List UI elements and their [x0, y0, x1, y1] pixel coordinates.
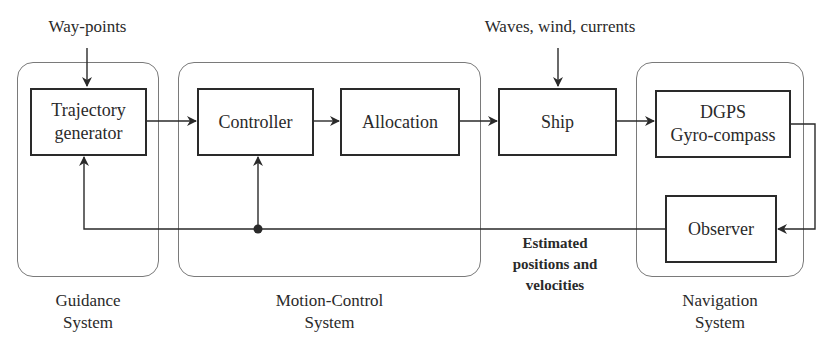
motion-control-system-label: Motion-Control System [178, 290, 481, 334]
dgps-gyrocompass-block: DGPSGyro-compass [655, 90, 791, 158]
trajectory-generator-block: Trajectorygenerator [30, 88, 147, 156]
waypoints-label: Way-points [30, 16, 145, 38]
junction-dot [254, 225, 263, 234]
guidance-system-label: Guidance System [17, 290, 159, 334]
navigation-system-label: Navigation System [636, 290, 804, 334]
disturbances-label: Waves, wind, currents [455, 16, 665, 38]
observer-block: Observer [665, 195, 777, 263]
allocation-block: Allocation [340, 88, 460, 156]
feedback-label: Estimated positions and velocities [490, 233, 620, 296]
ship-block: Ship [498, 88, 617, 156]
controller-block: Controller [197, 88, 314, 156]
